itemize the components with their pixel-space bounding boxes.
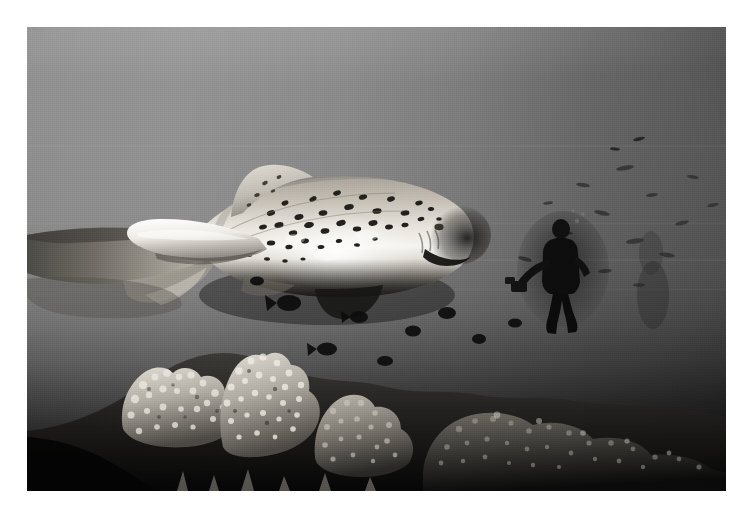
photograph [27,27,726,491]
vignette [27,27,726,491]
photo-page [0,0,752,519]
